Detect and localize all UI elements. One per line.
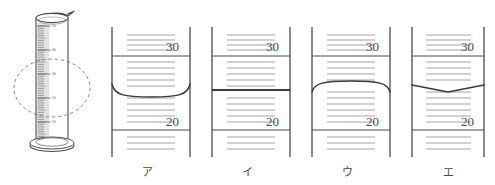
cylinder-scale-label-20: 20 <box>52 96 56 100</box>
cylinder-scale-band <box>37 23 49 141</box>
panel-a-label-20: 20 <box>166 114 179 129</box>
cylinder-scale-label-30: 30 <box>52 72 56 76</box>
panel-u-water-surface <box>312 81 390 92</box>
panel-e-water-surface <box>412 85 484 92</box>
panel-u-label-30: 30 <box>366 39 379 54</box>
panel-u: 30 20 ウ <box>312 27 390 179</box>
panel-i-label-30: 30 <box>266 39 279 54</box>
measuring-cylinder-meniscus-figure: 50 40 30 20 10 <box>0 0 495 185</box>
panel-u-caption: ウ <box>342 166 353 179</box>
cylinder-scale-label-50: 50 <box>52 24 56 28</box>
cylinder-rim <box>36 13 68 22</box>
panel-e-label-20: 20 <box>461 114 474 129</box>
cylinder-scale-label-40: 40 <box>52 48 56 52</box>
panel-a: 30 20 ア <box>112 27 190 179</box>
panel-i-caption: イ <box>242 166 253 179</box>
panel-u-label-20: 20 <box>366 114 379 129</box>
panel-e-caption: エ <box>443 166 454 179</box>
cylinder-scale-label-10: 10 <box>52 120 56 124</box>
panel-i: 30 20 イ <box>212 27 290 179</box>
graduated-cylinder: 50 40 30 20 10 <box>14 11 90 151</box>
panel-e-label-30: 30 <box>461 39 474 54</box>
panel-e: 30 20 エ <box>412 27 484 179</box>
panel-a-label-30: 30 <box>166 39 179 54</box>
panel-i-label-20: 20 <box>266 114 279 129</box>
panel-a-caption: ア <box>142 166 153 179</box>
